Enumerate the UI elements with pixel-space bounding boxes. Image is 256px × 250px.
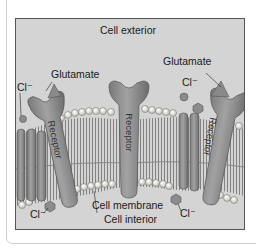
channel-left: [17, 129, 46, 201]
label-cl-bottom-right: Cl⁻: [180, 208, 196, 219]
diagram-frame: Cell exterior Glutamate Glutamate Cl⁻ Cl…: [15, 18, 245, 230]
label-glutamate-right: Glutamate: [163, 56, 211, 67]
label-cell-interior: Cell interior: [104, 214, 157, 225]
label-cl-top-left: Cl⁻: [17, 82, 33, 93]
label-cell-exterior: Cell exterior: [100, 25, 156, 36]
label-receptor-center: Receptor: [124, 113, 135, 152]
label-cl-top-right: Cl⁻: [182, 77, 198, 88]
label-cl-bottom-left: Cl⁻: [30, 209, 46, 220]
label-glutamate-left: Glutamate: [51, 69, 99, 80]
label-cell-membrane: Cell membrane: [92, 200, 163, 211]
